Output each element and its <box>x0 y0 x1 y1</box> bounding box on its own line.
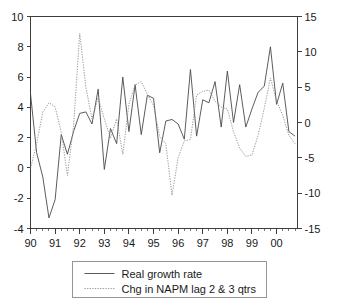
x-axis-tick-label: 95 <box>147 237 159 249</box>
x-axis-tick-label: 91 <box>49 237 61 249</box>
series-line-2 <box>31 33 296 195</box>
y-axis-left-tick-label: 2 <box>17 132 23 144</box>
y-axis-right-tick-label: -5 <box>305 152 315 164</box>
y-axis-right-tick-label: 10 <box>305 46 317 58</box>
axes-layer: 1086420-2-4151050-5-10-15909192939495969… <box>11 11 320 249</box>
y-axis-right-tick-label: 0 <box>305 117 311 129</box>
series-line-1 <box>31 47 296 218</box>
y-axis-left-tick-label: 8 <box>17 41 23 53</box>
x-axis-tick-label: 93 <box>98 237 110 249</box>
x-axis-tick-label: 00 <box>270 237 282 249</box>
x-axis-tick-label: 92 <box>74 237 86 249</box>
y-axis-left-tick-label: 6 <box>17 71 23 83</box>
y-axis-left-tick-label: 4 <box>17 101 23 113</box>
y-axis-left-tick-label: -4 <box>14 223 24 235</box>
y-axis-left-tick-label: 0 <box>17 162 23 174</box>
chart-figure: 1086420-2-4151050-5-10-15909192939495969… <box>0 0 340 305</box>
legend-label: Real growth rate <box>122 268 203 280</box>
chart-legend: Real growth rateChg in NAPM lag 2 & 3 qt… <box>73 262 267 298</box>
y-axis-left-tick-label: 10 <box>11 11 23 23</box>
x-axis-tick-label: 94 <box>123 237 135 249</box>
y-axis-right-tick-label: -10 <box>305 187 321 199</box>
legend-label: Chg in NAPM lag 2 & 3 qtrs <box>122 283 257 295</box>
y-axis-right-tick-label: 15 <box>305 11 317 23</box>
x-axis-tick-label: 98 <box>221 237 233 249</box>
x-axis-tick-label: 99 <box>246 237 258 249</box>
x-axis-tick-label: 96 <box>172 237 184 249</box>
series-layer <box>31 33 296 217</box>
x-axis-tick-label: 90 <box>24 237 36 249</box>
x-axis-tick-label: 97 <box>197 237 209 249</box>
line-chart: 1086420-2-4151050-5-10-15909192939495969… <box>0 0 340 305</box>
y-axis-right-tick-label: 5 <box>305 81 311 93</box>
y-axis-left-tick-label: -2 <box>14 192 24 204</box>
y-axis-right-tick-label: -15 <box>305 223 321 235</box>
